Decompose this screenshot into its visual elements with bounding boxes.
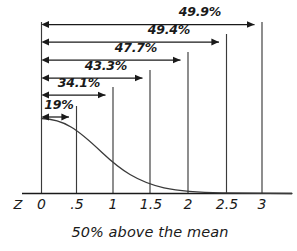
annotation-label-49-9: 49.9%	[179, 6, 221, 19]
axis-variable-name: Z	[14, 198, 23, 211]
annotation-label-34-1: 34.1%	[58, 77, 100, 90]
annotation-label-19: 19%	[44, 99, 73, 112]
tick-label-z1-5: 1.5	[140, 197, 162, 211]
normal-distribution-figure: 49.9% 49.4% 47.7% 43.3% 34.1% 19% Z 0 .5…	[0, 0, 297, 251]
tick-label-z0-5: .5	[70, 197, 83, 211]
tick-label-z2-5: 2.5	[216, 197, 238, 211]
tick-label-z2: 2	[184, 197, 193, 211]
normal-curve	[42, 119, 293, 194]
annotation-label-47-7: 47.7%	[115, 42, 157, 55]
chart-caption: 50% above the mean	[71, 225, 228, 240]
tick-label-z1: 1	[109, 197, 118, 211]
tick-label-z3: 3	[258, 197, 267, 211]
tick-label-z0: 0	[37, 197, 46, 211]
annotation-arrows	[49, 25, 255, 118]
annotation-label-43-3: 43.3%	[85, 60, 127, 73]
annotation-label-49-4: 49.4%	[148, 24, 190, 37]
chart-canvas	[0, 0, 297, 251]
